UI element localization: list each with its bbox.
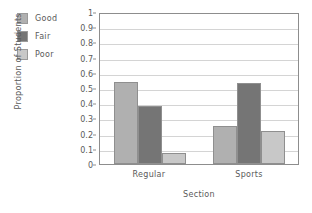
bars-layer — [100, 14, 298, 164]
y-tick-label: 0.9 — [80, 24, 93, 33]
bar-sports-good[interactable] — [213, 126, 237, 164]
y-tick-mark — [93, 165, 96, 166]
x-axis-title: Section — [99, 190, 299, 199]
bar-group-sports — [199, 14, 298, 164]
y-tick-mark — [93, 58, 96, 59]
bar-sports-poor[interactable] — [261, 131, 285, 164]
y-tick-mark — [93, 28, 96, 29]
plot-area — [99, 13, 299, 165]
y-tick-label: 0.7 — [80, 54, 93, 63]
legend-label-fair: Fair — [35, 32, 50, 41]
legend-item-fair: Fair — [17, 28, 79, 45]
y-tick-mark — [93, 13, 96, 14]
bar-regular-fair[interactable] — [138, 106, 162, 164]
y-tick-label: 0.6 — [80, 69, 93, 78]
y-tick-mark — [93, 119, 96, 120]
y-tick-mark — [93, 134, 96, 135]
bar-regular-good[interactable] — [114, 82, 138, 164]
y-tick-mark — [93, 43, 96, 44]
chart-legend: Good Fair Poor — [17, 10, 79, 64]
bar-chart-figure: Good Fair Poor 00.10.20.30.40.50.60.70.8… — [0, 0, 312, 213]
y-tick-mark — [93, 73, 96, 74]
y-tick-mark — [93, 104, 96, 105]
y-tick-label: 0.5 — [80, 85, 93, 94]
x-tick-label-regular: Regular — [99, 170, 199, 179]
y-axis-title: Proportion of Students — [14, 14, 23, 110]
y-tick-label: 0.1 — [80, 145, 93, 154]
y-tick-mark — [93, 149, 96, 150]
y-tick-mark — [93, 89, 96, 90]
legend-item-good: Good — [17, 10, 79, 27]
x-axis: RegularSports — [99, 170, 299, 179]
y-axis: 00.10.20.30.40.50.60.70.80.91 — [72, 13, 96, 165]
legend-label-poor: Poor — [35, 50, 54, 59]
y-tick-label: 0.3 — [80, 115, 93, 124]
bar-group-regular — [100, 14, 199, 164]
y-tick-label: 0.4 — [80, 100, 93, 109]
legend-item-poor: Poor — [17, 46, 79, 63]
legend-label-good: Good — [35, 14, 57, 23]
x-tick-label-sports: Sports — [199, 170, 299, 179]
bar-sports-fair[interactable] — [237, 83, 261, 164]
bar-regular-poor[interactable] — [162, 153, 186, 164]
y-tick-label: 0.8 — [80, 39, 93, 48]
y-tick-label: 0.2 — [80, 130, 93, 139]
